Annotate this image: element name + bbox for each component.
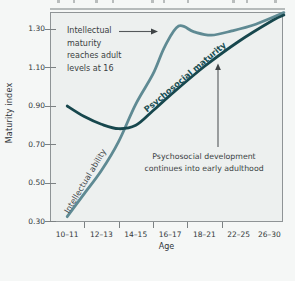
- annotation-line: maturity: [67, 38, 121, 51]
- annotation-line: Intellectual: [67, 25, 121, 38]
- arrow-to-intellectual-peak: [119, 29, 158, 35]
- annotation-line: continues into early adulthood: [137, 163, 271, 175]
- annotation-psychosocial-development: Psychosocial development continues into …: [137, 151, 271, 176]
- chart-overlay: [0, 0, 295, 281]
- annotation-line: reaches adult: [67, 50, 121, 63]
- arrow-to-psychosocial-curve: [215, 64, 221, 148]
- annotation-intellectual-maturity: Intellectual maturity reaches adult leve…: [67, 25, 121, 75]
- figure-canvas: Maturity index Age 0.300.500.700.901.101…: [0, 0, 295, 281]
- annotation-line: levels at 16: [67, 63, 121, 76]
- annotation-line: Psychosocial development: [137, 151, 271, 163]
